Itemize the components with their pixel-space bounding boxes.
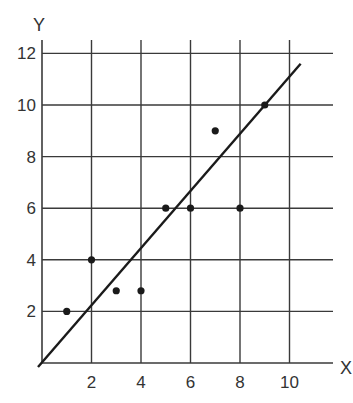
fit-line-segment <box>38 64 301 367</box>
data-point <box>212 127 219 134</box>
data-point <box>187 205 194 212</box>
data-point <box>236 205 243 212</box>
y-tick-label: 4 <box>27 251 36 270</box>
x-tick-label: 8 <box>235 373 244 392</box>
x-tick-label: 2 <box>87 373 96 392</box>
scatter-chart: 24681024681012 X Y <box>0 0 353 403</box>
data-point <box>88 256 95 263</box>
y-axis-label: Y <box>33 15 45 35</box>
x-tick-label: 6 <box>186 373 195 392</box>
data-point <box>137 287 144 294</box>
grid-lines <box>42 40 333 363</box>
data-point <box>261 101 268 108</box>
data-point <box>63 308 70 315</box>
y-tick-label: 6 <box>27 199 36 218</box>
data-point <box>162 205 169 212</box>
x-axis-label: X <box>340 358 352 378</box>
best-fit-line <box>38 64 301 367</box>
tick-labels: 24681024681012 <box>17 44 299 392</box>
y-tick-label: 2 <box>27 302 36 321</box>
y-tick-label: 12 <box>17 44 36 63</box>
y-tick-label: 8 <box>27 148 36 167</box>
y-tick-label: 10 <box>17 96 36 115</box>
x-tick-label: 10 <box>280 373 299 392</box>
x-tick-label: 4 <box>136 373 145 392</box>
data-point <box>113 287 120 294</box>
